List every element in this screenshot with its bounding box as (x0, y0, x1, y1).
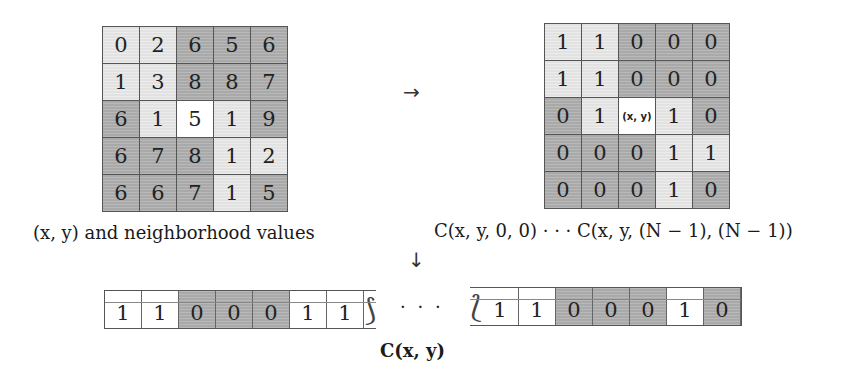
vector-bit-head-0: 1 (105, 291, 142, 328)
comparison-cell-r1-c2: 0 (619, 61, 655, 97)
neighborhood-cell-r0-c0: 0 (103, 27, 139, 63)
neighborhood-cell-r1-c0: 1 (103, 64, 139, 100)
neighborhood-cell-r1-c1: 3 (140, 64, 176, 100)
neighborhood-cell-r3-c4: 2 (251, 138, 287, 174)
vector-bit-head-4: 0 (253, 291, 290, 328)
vector-bit-head-2: 0 (179, 291, 216, 328)
vector-bit-head-5: 1 (290, 291, 327, 328)
vector-bit-tail-3: 0 (593, 288, 630, 325)
comparison-cell-r2-c3: 1 (656, 98, 692, 134)
vector-bit-tail-6: 0 (704, 288, 741, 325)
neighborhood-values-grid: 0265613887615196781266715 (102, 26, 288, 212)
vector-bit-tail-0: 1 (482, 288, 519, 325)
down-arrow-icon: ↓ (408, 248, 425, 272)
comparison-cell-r3-c0: 0 (545, 135, 581, 171)
comparison-cell-r2-c1: 1 (582, 98, 618, 134)
neighborhood-cell-r4-c3: 1 (214, 175, 250, 211)
comparison-grid: 110001100001(x, y)100001100010 (544, 23, 730, 209)
neighborhood-cell-r2-c0: 6 (103, 101, 139, 137)
comparison-cell-r3-c2: 0 (619, 135, 655, 171)
neighborhood-cell-r2-c3: 1 (214, 101, 250, 137)
neighborhood-cell-r0-c1: 2 (140, 27, 176, 63)
vector-strip-head: 1100011⟆ (104, 290, 376, 329)
comparison-cell-r0-c3: 0 (656, 24, 692, 60)
comparison-cell-r2-c4: 0 (693, 98, 729, 134)
comparison-cell-r3-c3: 1 (656, 135, 692, 171)
vector-strip-tail: ⟅1100010 (470, 287, 742, 326)
vector-bit-head-6: 1 (327, 291, 364, 328)
neighborhood-cell-r1-c3: 8 (214, 64, 250, 100)
neighborhood-cell-r0-c4: 6 (251, 27, 287, 63)
vector-bit-tail-1: 1 (519, 288, 556, 325)
neighborhood-cell-r3-c1: 7 (140, 138, 176, 174)
neighborhood-cell-r3-c3: 1 (214, 138, 250, 174)
neighborhood-cell-r4-c0: 6 (103, 175, 139, 211)
neighborhood-cell-r3-c0: 6 (103, 138, 139, 174)
strip-break-icon: ⟅ (470, 288, 482, 325)
comparison-cell-r4-c4: 0 (693, 172, 729, 208)
neighborhood-cell-r0-c2: 6 (177, 27, 213, 63)
comparison-cell-r0-c2: 0 (619, 24, 655, 60)
comparison-cell-r3-c1: 0 (582, 135, 618, 171)
comparison-cell-r3-c4: 1 (693, 135, 729, 171)
comparison-cell-r0-c4: 0 (693, 24, 729, 60)
neighborhood-cell-r4-c1: 6 (140, 175, 176, 211)
comparison-cell-r4-c0: 0 (545, 172, 581, 208)
vector-bit-head-1: 1 (142, 291, 179, 328)
neighborhood-cell-r2-c4: 9 (251, 101, 287, 137)
neighborhood-cell-r4-c2: 7 (177, 175, 213, 211)
neighborhood-cell-r1-c2: 8 (177, 64, 213, 100)
comparison-caption: C(x, y, 0, 0) · · · C(x, y, (N − 1), (N … (434, 220, 793, 241)
comparison-cell-r4-c2: 0 (619, 172, 655, 208)
comparison-cell-r1-c3: 0 (656, 61, 692, 97)
comparison-cell-r1-c0: 1 (545, 61, 581, 97)
neighborhood-cell-r3-c2: 8 (177, 138, 213, 174)
comparison-cell-r2-c2: (x, y) (619, 98, 655, 134)
comparison-cell-r1-c4: 0 (693, 61, 729, 97)
comparison-cell-r0-c1: 1 (582, 24, 618, 60)
comparison-cell-r0-c0: 1 (545, 24, 581, 60)
vector-ellipsis: · · · (400, 296, 444, 317)
neighborhood-cell-r4-c4: 5 (251, 175, 287, 211)
comparison-cell-r2-c0: 0 (545, 98, 581, 134)
right-arrow-icon: → (403, 80, 420, 104)
comparison-cell-r1-c1: 1 (582, 61, 618, 97)
comparison-cell-r4-c3: 1 (656, 172, 692, 208)
neighborhood-cell-r0-c3: 5 (214, 27, 250, 63)
vector-caption: C(x, y) (380, 340, 445, 361)
vector-bit-head-3: 0 (216, 291, 253, 328)
neighborhood-cell-r1-c4: 7 (251, 64, 287, 100)
vector-bit-tail-2: 0 (556, 288, 593, 325)
comparison-cell-r4-c1: 0 (582, 172, 618, 208)
vector-bit-tail-5: 1 (667, 288, 704, 325)
strip-break-icon: ⟆ (364, 291, 376, 328)
vector-bit-tail-4: 0 (630, 288, 667, 325)
neighborhood-caption: (x, y) and neighborhood values (33, 222, 315, 243)
neighborhood-cell-r2-c1: 1 (140, 101, 176, 137)
neighborhood-cell-r2-c2: 5 (177, 101, 213, 137)
